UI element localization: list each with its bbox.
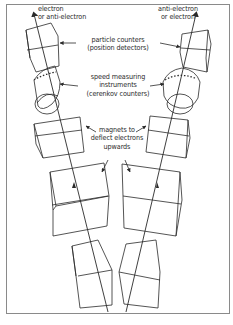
- right-magnet-upper: [146, 116, 190, 158]
- label-right-beam: anti-electron or electron: [148, 5, 208, 22]
- label-particle-counters-line2: (position detectors): [80, 44, 156, 52]
- right-magnet-lower: [119, 240, 160, 308]
- leader-magnet-middle-right: [125, 160, 130, 172]
- leader-particle-right: [160, 43, 180, 47]
- right-beam-arrow: [126, 14, 196, 312]
- left-magnet-upper: [34, 117, 84, 158]
- left-beam-arrow: [34, 14, 108, 312]
- left-magnet-lower: [72, 240, 112, 308]
- left-cerenkov-counter: [34, 66, 60, 114]
- label-particle-counters: particle counters (position detectors): [80, 36, 156, 53]
- label-speed-instruments-line3: (cerenkov counters): [80, 90, 156, 98]
- label-left-beam: electron or anti-electron: [38, 5, 86, 22]
- label-speed-instruments: speed measuring instruments (cerenkov co…: [80, 73, 156, 98]
- label-left-beam-line2: or anti-electron: [38, 13, 86, 21]
- label-right-beam-line2: or electron: [148, 13, 208, 21]
- leader-speed-left: [60, 84, 78, 86]
- label-magnets: magnets to deflect electrons upwards: [84, 126, 150, 151]
- label-magnets-line3: upwards: [84, 143, 150, 151]
- right-particle-counter: [180, 30, 211, 72]
- left-magnet-middle: [50, 163, 109, 236]
